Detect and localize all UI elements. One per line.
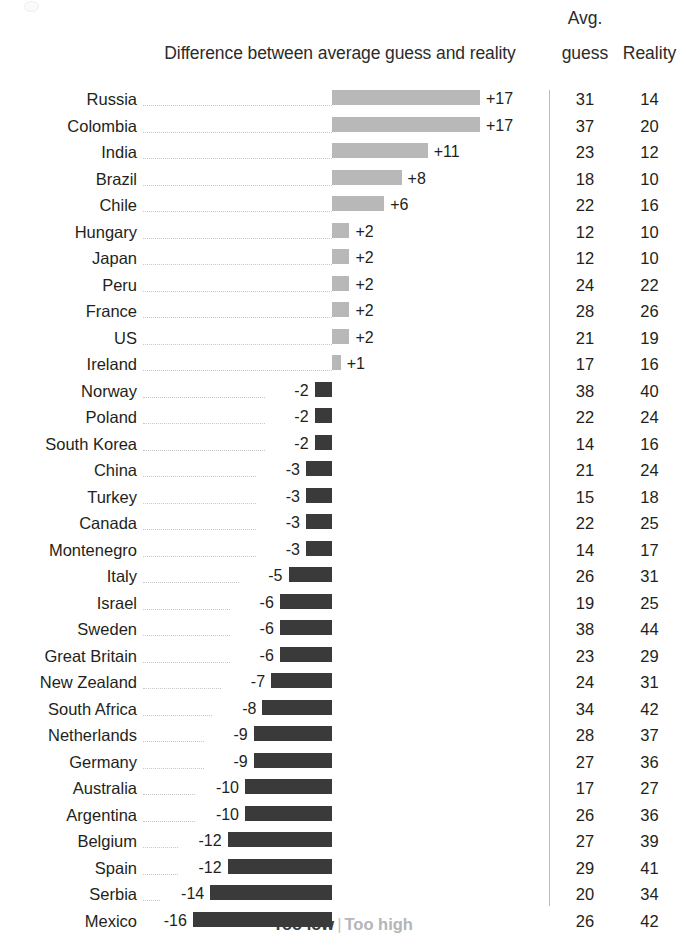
leader-line [143,211,332,212]
avg-guess-value: 15 [549,487,621,507]
avg-guess-value: 22 [549,195,621,215]
bar-positive [332,223,349,238]
country-label: Japan [0,248,137,268]
country-label: Serbia [0,884,137,904]
chart-row: US+22119 [0,327,686,354]
leader-line [143,715,212,716]
avg-guess-value: 26 [549,566,621,586]
avg-guess-value: 38 [549,619,621,639]
country-label: Italy [0,566,137,586]
bar-value-label: -6 [234,646,274,665]
reality-value: 24 [613,460,686,480]
leader-line [143,609,230,610]
bar-value-label: +1 [347,354,365,373]
bar-value-label: +2 [355,301,373,320]
bar-value-label: +11 [434,142,460,161]
reality-value: 19 [613,328,686,348]
country-label: Great Britain [0,646,137,666]
country-label: Spain [0,858,137,878]
country-label: Brazil [0,169,137,189]
avg-guess-value: 22 [549,513,621,533]
bar-negative [280,620,332,635]
bar-value-label: +2 [355,275,373,294]
avg-guess-value: 18 [549,169,621,189]
leader-line [143,450,265,451]
reality-value: 10 [613,222,686,242]
country-label: Turkey [0,487,137,507]
bar-value-label: +2 [355,328,373,347]
country-label: Argentina [0,805,137,825]
chart-row: Canada-32225 [0,512,686,539]
reality-value: 36 [613,752,686,772]
bar-negative [254,726,332,741]
bar-positive [332,249,349,264]
country-label: Canada [0,513,137,533]
avg-guess-value: 27 [549,831,621,851]
bar-value-label: +17 [486,116,513,135]
leader-line [143,185,332,186]
bar-positive [332,170,402,185]
bar-positive [332,196,384,211]
bar-value-label: -12 [182,858,222,877]
country-label: Norway [0,381,137,401]
country-label: New Zealand [0,672,137,692]
country-label: France [0,301,137,321]
chart-row: Turkey-31518 [0,486,686,513]
bar-value-label: -8 [216,699,256,718]
country-label: Netherlands [0,725,137,745]
bar-value-label: -6 [234,593,274,612]
chart-row: Peru+22422 [0,274,686,301]
chart-row: Argentina-102636 [0,804,686,831]
leader-line [143,370,332,371]
leader-line [143,900,160,901]
reality-value: 14 [613,89,686,109]
bar-negative [210,885,332,900]
country-label: Poland [0,407,137,427]
leader-line [143,582,239,583]
bar-value-label: -2 [269,407,309,426]
bar-value-label: -14 [164,884,204,903]
country-label: China [0,460,137,480]
chart-row: India+112312 [0,141,686,168]
chart-row: Poland-22224 [0,406,686,433]
bar-negative [228,859,332,874]
column-header-avg-guess-line1: Avg. [549,8,621,29]
reality-value: 41 [613,858,686,878]
avg-guess-value: 28 [549,725,621,745]
leader-line [143,503,256,504]
chart-row: Germany-92736 [0,751,686,778]
leader-line [143,344,332,345]
country-label: Montenegro [0,540,137,560]
chart-row: Netherlands-92837 [0,724,686,751]
leader-line [143,847,178,848]
bar-value-label: -2 [269,434,309,453]
bar-value-label: -6 [234,619,274,638]
reality-value: 10 [613,169,686,189]
country-label: Hungary [0,222,137,242]
bar-negative [245,779,332,794]
chart-row: Spain-122941 [0,857,686,884]
bar-negative [306,461,332,476]
leader-line [143,476,256,477]
reality-value: 16 [613,195,686,215]
bar-negative [315,382,332,397]
reality-value: 22 [613,275,686,295]
country-label: South Africa [0,699,137,719]
leader-line [143,105,332,106]
country-label: Russia [0,89,137,109]
chart-row: China-32124 [0,459,686,486]
reality-value: 25 [613,513,686,533]
bar-negative [306,541,332,556]
bar-positive [332,143,428,158]
reality-value: 26 [613,301,686,321]
bar-negative [306,514,332,529]
bar-value-label: -10 [199,778,239,797]
avg-guess-value: 17 [549,354,621,374]
leader-line [143,556,256,557]
bar-negative [228,832,332,847]
reality-value: 44 [613,619,686,639]
country-label: Ireland [0,354,137,374]
legend-separator: | [334,915,344,933]
bar-value-label: +8 [408,169,426,188]
bar-value-label: +2 [355,222,373,241]
